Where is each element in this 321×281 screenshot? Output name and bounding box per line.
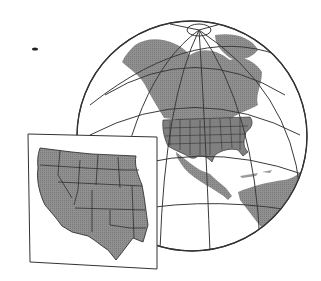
speck-mark <box>32 47 38 50</box>
map-illustration <box>0 0 321 281</box>
western-us-inset <box>28 134 157 269</box>
